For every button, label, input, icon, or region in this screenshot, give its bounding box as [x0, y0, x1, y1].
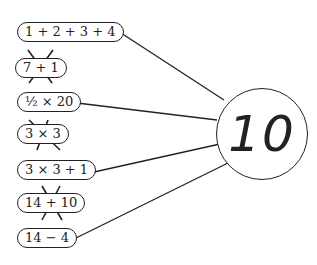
expression-half-times-20[interactable]: ½ × 20: [17, 92, 81, 112]
expression-14-minus-4[interactable]: 14 − 4: [17, 228, 77, 248]
expression-14-plus-10[interactable]: 14 + 10: [17, 193, 85, 213]
expression-3-times-3-plus-1[interactable]: 3 × 3 + 1: [17, 160, 96, 180]
expression-3-times-3[interactable]: 3 × 3: [17, 124, 69, 144]
target-value: 10: [228, 105, 296, 163]
expression-1-plus-2-plus-3-plus-4[interactable]: 1 + 2 + 3 + 4: [17, 22, 124, 42]
target-number-circle: 10: [216, 88, 308, 180]
expression-7-plus-1[interactable]: 7 + 1: [15, 58, 67, 78]
